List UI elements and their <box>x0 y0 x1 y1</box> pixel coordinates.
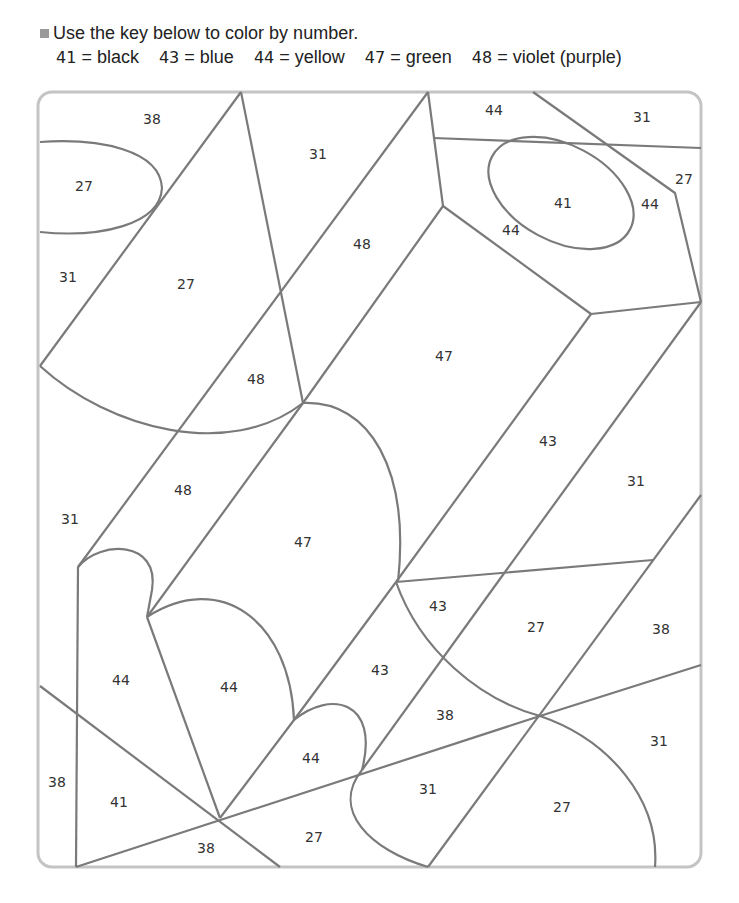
region-label: 44 <box>485 102 503 118</box>
puzzle-outlines <box>40 92 701 867</box>
region-label: 44 <box>302 750 320 766</box>
region-label: 38 <box>48 774 66 790</box>
region-label: 31 <box>61 511 79 527</box>
region-label: 48 <box>247 371 265 387</box>
region-label: 27 <box>75 178 93 194</box>
region-label: 44 <box>502 222 520 238</box>
region-label: 44 <box>112 672 130 688</box>
region-label: 27 <box>675 171 693 187</box>
region-label: 48 <box>353 236 371 252</box>
region-label: 48 <box>174 482 192 498</box>
region-label: 43 <box>371 662 389 678</box>
region-label: 41 <box>110 794 128 810</box>
region-label: 41 <box>554 195 572 211</box>
region-label: 31 <box>627 473 645 489</box>
region-label: 31 <box>633 109 651 125</box>
region-label: 27 <box>177 276 195 292</box>
region-label: 27 <box>527 619 545 635</box>
region-label: 38 <box>652 621 670 637</box>
region-label: 38 <box>197 840 215 856</box>
region-label: 31 <box>419 781 437 797</box>
region-label: 31 <box>59 269 77 285</box>
region-label: 38 <box>143 111 161 127</box>
region-label: 47 <box>435 348 453 364</box>
region-label: 31 <box>650 733 668 749</box>
region-label: 43 <box>429 598 447 614</box>
region-label: 44 <box>641 196 659 212</box>
region-label: 27 <box>553 799 571 815</box>
region-label: 44 <box>220 679 238 695</box>
color-by-number-puzzle: 3827312731484844312741444447433148314743… <box>0 0 739 903</box>
region-label: 43 <box>539 433 557 449</box>
region-label: 31 <box>309 146 327 162</box>
region-label: 47 <box>294 534 312 550</box>
region-label: 27 <box>305 829 323 845</box>
region-label: 38 <box>436 707 454 723</box>
